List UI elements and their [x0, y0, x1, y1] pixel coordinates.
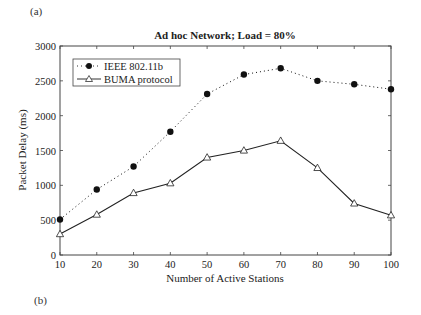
y-tick-label: 2000: [35, 111, 56, 122]
x-tick-label: 60: [239, 259, 250, 270]
y-tick-label: 1500: [35, 146, 56, 157]
x-tick-label: 20: [92, 259, 103, 270]
x-tick-label: 30: [128, 259, 139, 270]
data-point: [167, 179, 174, 185]
legend: IEEE 802.11b BUMA protocol: [73, 59, 180, 86]
x-tick-label: 10: [55, 259, 66, 270]
filled-circle-marker-icon: [86, 63, 92, 69]
legend-label-buma: BUMA protocol: [104, 74, 173, 85]
x-tick-label: 70: [275, 259, 286, 270]
x-tick-label: 100: [383, 259, 399, 270]
data-point: [241, 71, 247, 77]
y-tick-label: 0: [51, 250, 56, 261]
data-point: [130, 163, 136, 169]
data-point: [56, 230, 63, 236]
series-ieee-80211b: [57, 65, 394, 223]
y-tick-label: 3000: [35, 41, 56, 52]
series-buma-protocol: [56, 137, 394, 237]
data-point: [277, 65, 283, 71]
data-point: [314, 78, 320, 84]
x-tick-label: 40: [165, 259, 176, 270]
line-chart: Ad hoc Network; Load = 80% 1020304050607…: [0, 0, 421, 315]
data-point: [57, 216, 63, 222]
data-point: [277, 137, 284, 143]
data-point: [94, 186, 100, 192]
x-axis-label: Number of Active Stations: [166, 272, 284, 284]
legend-label-ieee: IEEE 802.11b: [104, 61, 163, 72]
x-tick-label: 90: [349, 259, 360, 270]
data-point: [351, 81, 357, 87]
data-point: [204, 91, 210, 97]
y-tick-label: 500: [40, 215, 56, 226]
y-tick-label: 2500: [35, 76, 56, 87]
y-axis-label: Packet Delay (ms): [16, 109, 29, 191]
series-layer: [56, 65, 394, 237]
data-point: [388, 86, 394, 92]
data-point: [314, 164, 321, 170]
x-tick-label: 50: [202, 259, 213, 270]
data-point: [93, 211, 100, 217]
data-point: [167, 128, 173, 134]
chart-title: Ad hoc Network; Load = 80%: [154, 29, 296, 41]
y-tick-label: 1000: [35, 180, 56, 191]
x-tick-label: 80: [312, 259, 323, 270]
